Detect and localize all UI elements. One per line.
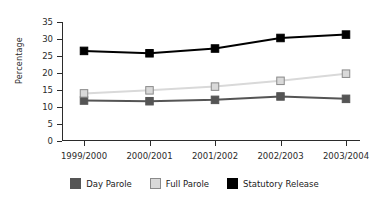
line-chart: Percentage 05101520253035 1999/20002000/… bbox=[0, 0, 389, 210]
legend-item[interactable]: Statutory Release bbox=[227, 178, 319, 189]
data-point-marker bbox=[342, 95, 350, 103]
series-layer bbox=[62, 22, 360, 141]
x-tick bbox=[84, 141, 85, 146]
x-tick-label: 2000/2001 bbox=[115, 151, 185, 161]
x-tick-label: 2002/2003 bbox=[246, 151, 316, 161]
data-point-marker bbox=[277, 93, 285, 101]
y-tick-label: 20 bbox=[31, 69, 53, 78]
x-tick bbox=[346, 141, 347, 146]
x-tick-label: 1999/2000 bbox=[49, 151, 119, 161]
y-tick-label: 0 bbox=[31, 137, 53, 146]
x-tick bbox=[215, 141, 216, 146]
x-tick-label: 2001/2002 bbox=[180, 151, 250, 161]
legend-item[interactable]: Day Parole bbox=[70, 178, 132, 189]
x-tick bbox=[150, 141, 151, 146]
y-tick-label: 15 bbox=[31, 86, 53, 95]
y-axis-title: Percentage bbox=[15, 11, 24, 111]
data-point-marker bbox=[342, 70, 350, 78]
data-point-marker bbox=[80, 90, 88, 98]
legend-label: Day Parole bbox=[86, 179, 132, 189]
legend-swatch-icon bbox=[150, 178, 161, 189]
data-point-marker bbox=[277, 34, 285, 42]
data-point-marker bbox=[80, 47, 88, 55]
data-point-marker bbox=[211, 96, 219, 104]
legend-swatch-icon bbox=[70, 178, 81, 189]
legend-swatch-icon bbox=[227, 178, 238, 189]
data-point-marker bbox=[146, 50, 154, 58]
x-tick bbox=[281, 141, 282, 146]
data-point-marker bbox=[146, 97, 154, 105]
data-point-marker bbox=[80, 97, 88, 105]
data-point-marker bbox=[211, 45, 219, 53]
y-tick-label: 35 bbox=[31, 18, 53, 27]
x-tick-label: 2003/2004 bbox=[311, 151, 381, 161]
legend-item[interactable]: Full Parole bbox=[150, 178, 209, 189]
data-point-marker bbox=[211, 83, 219, 91]
y-tick-label: 25 bbox=[31, 52, 53, 61]
y-tick-label: 5 bbox=[31, 120, 53, 129]
y-tick-label: 30 bbox=[31, 35, 53, 44]
y-tick-label: 10 bbox=[31, 103, 53, 112]
plot-area: 05101520253035 1999/20002000/20012001/20… bbox=[62, 22, 360, 141]
legend-label: Full Parole bbox=[166, 179, 209, 189]
y-tick bbox=[57, 141, 62, 142]
chart-legend: Day ParoleFull ParoleStatutory Release bbox=[0, 178, 389, 189]
data-point-marker bbox=[277, 77, 285, 85]
data-point-marker bbox=[146, 87, 154, 95]
legend-label: Statutory Release bbox=[243, 179, 319, 189]
data-point-marker bbox=[342, 31, 350, 39]
